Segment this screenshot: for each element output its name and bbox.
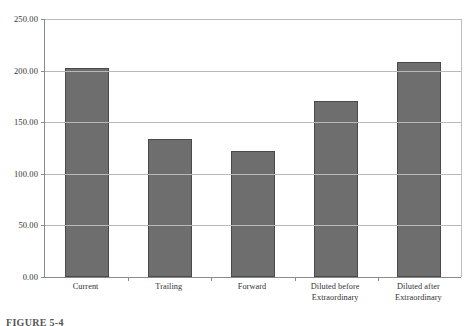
figure-caption: FIGURE 5-4: [6, 317, 64, 326]
y-axis-label: 50.00: [18, 220, 38, 230]
x-axis-label: Current: [44, 281, 127, 292]
bar-series: [45, 19, 461, 277]
gridline: [45, 19, 461, 20]
gridline: [45, 174, 461, 175]
bar[interactable]: [231, 151, 275, 277]
gridline: [45, 122, 461, 123]
bar-slot: [45, 19, 128, 277]
bar[interactable]: [314, 101, 358, 277]
y-axis-label: 0.00: [23, 272, 38, 282]
chart-plot-area: 0.0050.00100.00150.00200.00250.00: [44, 19, 462, 277]
x-axis-label: Forward: [210, 281, 293, 292]
bar[interactable]: [397, 62, 441, 277]
bar-slot: [128, 19, 211, 277]
x-axis-label-line: Current: [44, 281, 127, 292]
x-axis-label: Diluted beforeExtraordinary: [294, 281, 377, 303]
x-axis-line: [45, 277, 461, 278]
y-axis-tick: [41, 71, 45, 72]
y-axis-label: 200.00: [14, 66, 38, 76]
x-axis-label-line: Trailing: [127, 281, 210, 292]
y-axis-tick: [41, 122, 45, 123]
figure-container: 0.0050.00100.00150.00200.00250.00 FIGURE…: [0, 0, 475, 326]
bar[interactable]: [65, 68, 109, 277]
y-axis-tick: [41, 225, 45, 226]
gridline: [45, 225, 461, 226]
x-axis-label: Trailing: [127, 281, 210, 292]
y-axis-label: 250.00: [14, 14, 38, 24]
bar-slot: [378, 19, 461, 277]
y-axis-tick: [41, 174, 45, 175]
x-axis-label-line: Extraordinary: [294, 292, 377, 303]
bar[interactable]: [148, 139, 192, 277]
y-axis-tick: [41, 277, 45, 278]
bar-slot: [295, 19, 378, 277]
y-axis-label: 150.00: [14, 117, 38, 127]
gridline: [45, 71, 461, 72]
x-axis-label-line: Diluted before: [294, 281, 377, 292]
x-axis-label: Diluted afterExtraordinary: [377, 281, 460, 303]
x-axis-label-line: Diluted after: [377, 281, 460, 292]
y-axis-tick: [41, 19, 45, 20]
x-axis-label-line: Forward: [210, 281, 293, 292]
x-axis-label-line: Extraordinary: [377, 292, 460, 303]
bar-slot: [211, 19, 294, 277]
y-axis-label: 100.00: [14, 169, 38, 179]
